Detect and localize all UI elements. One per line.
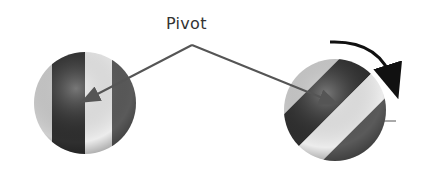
ball-upright — [30, 50, 145, 160]
pivot-diagram — [0, 0, 424, 181]
ball-rotated — [257, 32, 414, 181]
